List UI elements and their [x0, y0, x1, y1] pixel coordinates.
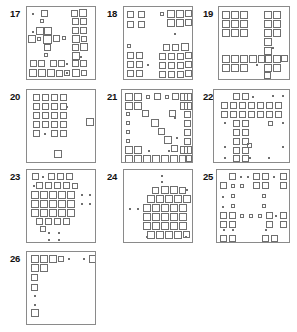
marker-square — [31, 274, 38, 281]
marker-square — [31, 255, 39, 263]
marker-dot — [34, 304, 36, 306]
marker-square — [49, 255, 57, 263]
marker-square — [40, 255, 48, 263]
panel-26: 26 — [0, 0, 297, 332]
marker-dot — [68, 258, 70, 260]
marker-square — [89, 255, 95, 263]
marker-dot — [83, 258, 85, 260]
panel-label-26: 26 — [10, 254, 20, 264]
marker-square — [40, 264, 48, 272]
marker-square — [31, 309, 39, 317]
marker-dot — [34, 295, 36, 297]
marker-square — [58, 256, 64, 262]
panel-figure: 17181920212223242526 — [0, 0, 297, 332]
panel-frame-26 — [26, 251, 96, 325]
marker-square — [31, 264, 39, 272]
plot-area-26 — [27, 252, 95, 324]
marker-square — [31, 284, 38, 291]
